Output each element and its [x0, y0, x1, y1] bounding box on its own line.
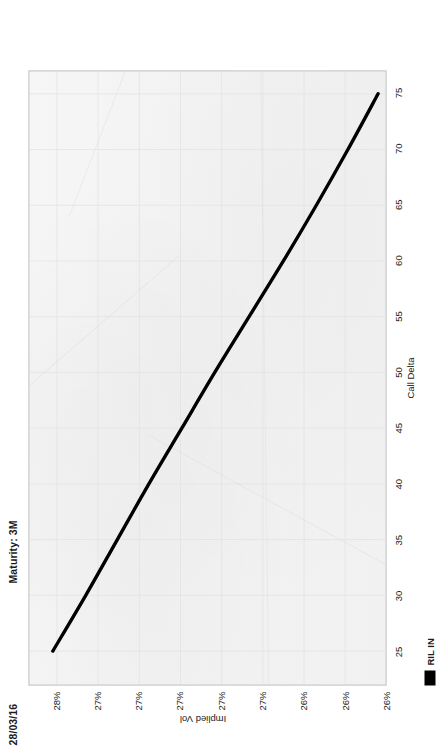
x-tick-label: 40 — [392, 478, 403, 489]
x-tick-label: 45 — [392, 423, 403, 434]
report-maturity: Maturity: 3M — [6, 520, 18, 583]
x-tick-label: 25 — [392, 646, 403, 657]
x-tick-label: 55 — [392, 311, 403, 322]
x-tick-label: 65 — [392, 199, 403, 210]
x-tick-label: 30 — [392, 590, 403, 601]
x-tick-label: 70 — [392, 143, 403, 154]
report-date: 28/03/16 — [6, 703, 18, 745]
y-axis-title: Implied Vol — [123, 714, 283, 725]
x-tick-label: 60 — [392, 255, 403, 266]
legend-swatch-ril-in — [424, 670, 435, 685]
y-tick-label: 26% — [298, 691, 309, 719]
chart-legend: RIL IN — [424, 638, 435, 685]
y-tick-label: 26% — [339, 691, 350, 719]
chart-stage: 28/03/16 Maturity: 3M 253035404550556065… — [0, 0, 441, 751]
plot-area — [28, 70, 386, 685]
x-tick-label: 50 — [392, 367, 403, 378]
scanned-page: 28/03/16 Maturity: 3M 253035404550556065… — [0, 0, 441, 751]
implied-vol-curve — [29, 71, 386, 684]
x-tick-label: 75 — [392, 87, 403, 98]
y-tick-label: 26% — [381, 691, 392, 719]
x-axis-title: Call Delta — [404, 70, 415, 685]
legend-label-ril-in: RIL IN — [424, 638, 435, 665]
y-tick-label: 28% — [50, 691, 61, 719]
x-tick-label: 35 — [392, 534, 403, 545]
y-tick-label: 27% — [91, 691, 102, 719]
